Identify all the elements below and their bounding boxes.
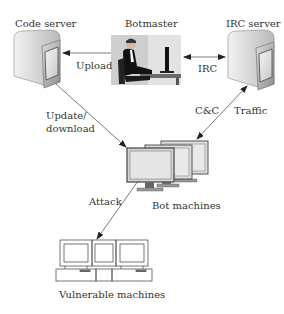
update-label: Update/ xyxy=(46,110,87,121)
bot-machines-icon xyxy=(127,141,208,191)
attack-arrow xyxy=(97,181,138,239)
traffic-label: Traffic xyxy=(234,105,267,116)
attack-label: Attack xyxy=(89,196,122,207)
upload-label: Upload xyxy=(76,60,112,71)
irc-server-label: IRC server xyxy=(226,18,281,29)
cnc-label: C&C xyxy=(195,105,219,116)
botmaster-icon xyxy=(111,35,181,85)
code-server-label: Code server xyxy=(15,18,76,29)
irc-server-icon xyxy=(228,30,274,90)
irc-label: IRC xyxy=(198,63,217,74)
diagram-canvas xyxy=(0,0,284,314)
code-server-icon xyxy=(14,30,60,88)
vulnerable-machines-label: Vulnerable machines xyxy=(59,289,165,300)
download-label: download xyxy=(46,123,95,134)
vulnerable-machines-icon xyxy=(56,240,152,281)
bot-machines-label: Bot machines xyxy=(152,200,221,211)
botmaster-label: Botmaster xyxy=(125,18,178,29)
